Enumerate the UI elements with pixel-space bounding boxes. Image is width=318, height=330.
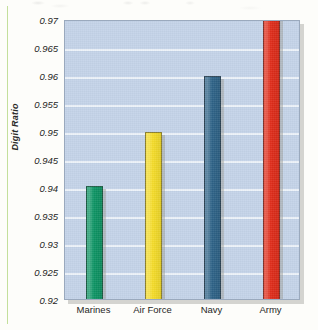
y-axis-tick-label: 0.925: [34, 267, 58, 278]
bar-air-force: [145, 132, 162, 300]
y-axis-tick-label: 0.96: [40, 71, 59, 82]
y-axis-tick-label: 0.94: [40, 183, 59, 194]
bar-navy: [204, 76, 221, 300]
x-axis-tick-label: Navy: [201, 304, 223, 315]
plot-area: [64, 20, 300, 300]
y-axis-tick-label: 0.93: [40, 239, 59, 250]
bar-gloss: [205, 77, 220, 300]
y-axis-tick-label: 0.97: [40, 15, 59, 26]
y-axis-tick-label: 0.965: [34, 43, 58, 54]
y-axis-tick-label: 0.92: [40, 295, 59, 306]
scan-artifact: [0, 0, 318, 14]
bar-army: [263, 20, 280, 300]
y-axis-tick-label: 0.945: [34, 155, 58, 166]
y-axis-tick-labels: 0.970.9650.960.9550.950.9450.940.9350.93…: [18, 20, 60, 300]
bar-series: [65, 21, 299, 299]
chart-figure: Digit Ratio 0.970.9650.960.9550.950.9450…: [0, 0, 318, 330]
bar-gloss: [87, 187, 102, 300]
y-axis-tick-label: 0.955: [34, 99, 58, 110]
x-axis-tick-label: Air Force: [133, 304, 172, 315]
x-axis-tick-labels: MarinesAir ForceNavyArmy: [64, 304, 300, 324]
page-margin-rule: [7, 6, 8, 324]
bar-gloss: [146, 133, 161, 300]
bar-marines: [86, 186, 103, 300]
y-axis-tick-label: 0.935: [34, 211, 58, 222]
x-axis-tick-label: Army: [259, 304, 281, 315]
x-axis-tick-label: Marines: [77, 304, 111, 315]
y-axis-tick-label: 0.95: [40, 127, 59, 138]
bar-gloss: [264, 20, 279, 300]
